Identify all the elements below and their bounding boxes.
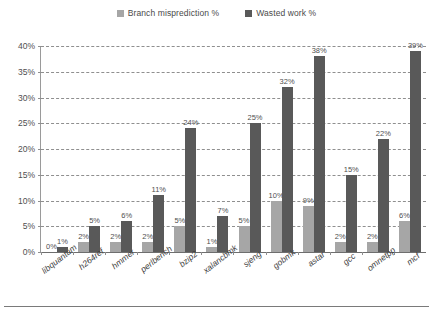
bar-value-label: 15% — [344, 165, 359, 174]
bar-wasted-work: 32% — [282, 87, 293, 252]
y-axis-label: 15% — [18, 170, 35, 180]
y-axis-label: 40% — [18, 41, 35, 51]
legend-entry-branch-misprediction: Branch misprediction % — [117, 8, 220, 18]
bar-branch-misprediction: 9% — [303, 206, 314, 252]
bar-branch-misprediction: 2% — [78, 242, 89, 252]
y-axis-label: 5% — [23, 221, 35, 231]
x-axis-labels: libquantumh264refhmmerperlbenchbzip2xala… — [40, 253, 426, 308]
bar-value-label: 2% — [110, 232, 121, 241]
bar-value-label: 6% — [399, 211, 410, 220]
x-axis-label-cell: xalancbmk — [201, 253, 233, 308]
bar-value-label: 2% — [142, 232, 153, 241]
bar-branch-misprediction: 2% — [335, 242, 346, 252]
bar-value-label: 32% — [280, 77, 295, 86]
bar-group: 5%24% — [169, 46, 201, 252]
bar-branch-misprediction: 2% — [367, 242, 378, 252]
bar-value-label: 38% — [312, 46, 327, 55]
legend-label-wasted-work: Wasted work % — [256, 8, 316, 18]
bar-group: 10%32% — [266, 46, 298, 252]
bar-group: 2%22% — [362, 46, 394, 252]
x-axis-label-cell: hmmer — [104, 253, 136, 308]
bar-group: 2%15% — [330, 46, 362, 252]
y-axis-label: 25% — [18, 118, 35, 128]
bar-value-label: 5% — [174, 216, 185, 225]
x-axis-label-cell: gobmk — [265, 253, 297, 308]
y-axis-label: 35% — [18, 67, 35, 77]
bar-group: 0%1% — [41, 46, 73, 252]
x-axis-label-cell: gcc — [330, 253, 362, 308]
bar-value-label: 6% — [121, 211, 132, 220]
bar-branch-misprediction: 5% — [239, 226, 250, 252]
x-axis-label: mcf — [405, 251, 422, 267]
legend-entry-wasted-work: Wasted work % — [245, 8, 316, 18]
bar-group: 2%11% — [137, 46, 169, 252]
bar-group: 2%5% — [73, 46, 105, 252]
bar-value-label: 5% — [239, 216, 250, 225]
bar-branch-misprediction: 2% — [142, 242, 153, 252]
legend-label-branch-misprediction: Branch misprediction % — [128, 8, 220, 18]
bar-wasted-work: 15% — [346, 175, 357, 252]
bar-branch-misprediction: 2% — [110, 242, 121, 252]
bar-group: 5%25% — [233, 46, 265, 252]
y-axis-label: 10% — [18, 196, 35, 206]
x-axis-label-cell: perlbench — [137, 253, 169, 308]
bar-value-label: 1% — [207, 237, 218, 246]
y-axis-label: 20% — [18, 144, 35, 154]
bar-wasted-work: 11% — [153, 195, 164, 252]
bar-value-label: 39% — [408, 41, 423, 50]
bar-value-label: 2% — [367, 232, 378, 241]
bar-wasted-work: 38% — [314, 56, 325, 252]
bar-value-label: 7% — [218, 206, 229, 215]
bar-value-label: 5% — [89, 216, 100, 225]
bar-branch-misprediction: 10% — [271, 201, 282, 253]
bar-wasted-work: 22% — [378, 139, 389, 252]
bar-branch-misprediction: 1% — [206, 247, 217, 252]
bar-group: 1%7% — [201, 46, 233, 252]
bar-chart: Branch misprediction % Wasted work % 0%5… — [0, 0, 433, 314]
bar-value-label: 0% — [46, 242, 57, 251]
y-axis-label: 0% — [23, 247, 35, 257]
x-axis-label: gcc — [340, 251, 357, 267]
plot-area: 0%5%10%15%20%25%30%35%40% 0%1%2%5%2%6%2%… — [40, 46, 426, 253]
bar-value-label: 2% — [335, 232, 346, 241]
bar-value-label: 25% — [247, 113, 262, 122]
bar-value-label: 24% — [183, 118, 198, 127]
bar-value-label: 11% — [152, 185, 166, 194]
y-axis-label: 30% — [18, 93, 35, 103]
chart-legend: Branch misprediction % Wasted work % — [0, 8, 433, 18]
bar-group: 9%38% — [298, 46, 330, 252]
bar-branch-misprediction: 6% — [399, 221, 410, 252]
bar-wasted-work: 39% — [410, 51, 421, 252]
bar-value-label: 1% — [57, 237, 68, 246]
x-axis-label-cell: bzip2 — [169, 253, 201, 308]
legend-swatch-wasted-work — [245, 10, 252, 17]
x-axis-label-cell: mcf — [394, 253, 426, 308]
bottom-divider — [4, 306, 429, 307]
x-axis-label: astar — [306, 249, 327, 269]
x-axis-label-cell: h264ref — [72, 253, 104, 308]
bar-value-label: 9% — [303, 196, 314, 205]
legend-swatch-branch-misprediction — [117, 10, 124, 17]
bar-value-label: 2% — [78, 232, 89, 241]
x-axis-label-cell: sjeng — [233, 253, 265, 308]
x-axis-label-cell: libquantum — [40, 253, 72, 308]
bar-group: 6%39% — [394, 46, 426, 252]
bar-group: 2%6% — [105, 46, 137, 252]
bar-wasted-work: 24% — [185, 128, 196, 252]
x-axis-label-cell: astar — [297, 253, 329, 308]
bar-wasted-work: 25% — [250, 123, 261, 252]
bars-layer: 0%1%2%5%2%6%2%11%5%24%1%7%5%25%10%32%9%3… — [41, 46, 426, 252]
x-axis-label-cell: omnetpp — [362, 253, 394, 308]
bar-value-label: 22% — [376, 129, 391, 138]
bar-branch-misprediction: 5% — [174, 226, 185, 252]
